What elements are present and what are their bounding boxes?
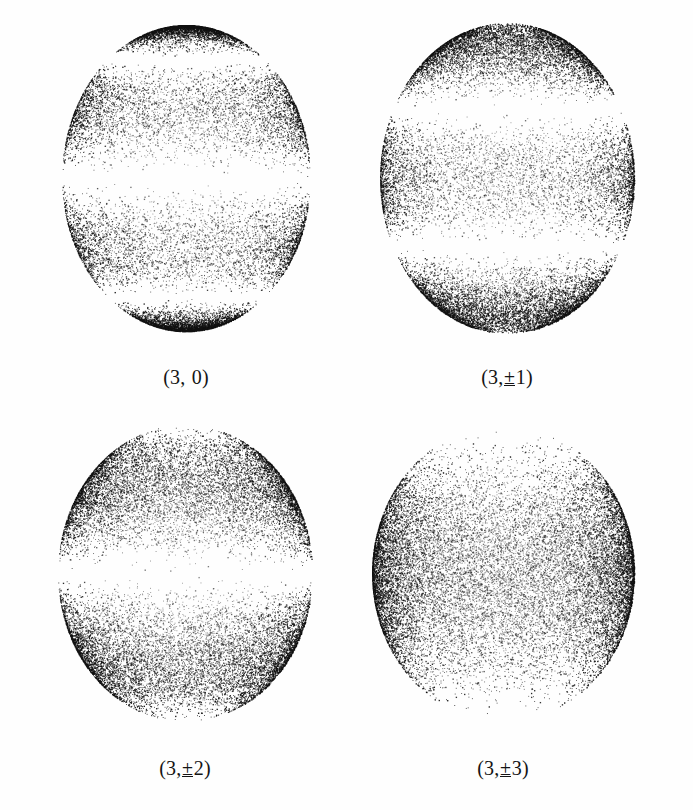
sphere-plot <box>54 421 316 725</box>
plus-minus-symbol: ± <box>504 367 516 387</box>
caption-prefix: (3, <box>159 757 181 779</box>
sphere-point-cloud <box>54 421 316 725</box>
caption-suffix: 2) <box>194 757 211 779</box>
caption-prefix: (3, <box>481 366 503 388</box>
panel-caption: (3,±3) <box>368 758 638 778</box>
sphere-point-cloud <box>376 19 638 337</box>
panel-caption: (3, 0) <box>58 367 314 387</box>
plus-minus-symbol: ± <box>182 758 194 778</box>
panel: (3,±1) <box>376 19 638 337</box>
sphere-point-cloud <box>368 421 638 725</box>
panel: (3,±2) <box>54 421 316 725</box>
sphere-plot <box>368 421 638 725</box>
panel: (3,±3) <box>368 421 638 725</box>
sphere-plot <box>58 21 314 335</box>
spherical-harmonics-figure: (3, 0) (3,±1) (3,±2) (3,±3) <box>0 0 693 810</box>
panel: (3, 0) <box>58 21 314 335</box>
caption-suffix: 1) <box>516 366 533 388</box>
panel-caption: (3,±2) <box>54 758 316 778</box>
sphere-plot <box>376 19 638 337</box>
sphere-point-cloud <box>58 21 314 335</box>
caption-suffix: 3) <box>512 757 529 779</box>
plus-minus-symbol: ± <box>500 758 512 778</box>
caption-suffix: 0) <box>192 366 209 388</box>
caption-prefix: (3, <box>163 366 190 388</box>
panel-caption: (3,±1) <box>376 367 638 387</box>
caption-prefix: (3, <box>477 757 499 779</box>
